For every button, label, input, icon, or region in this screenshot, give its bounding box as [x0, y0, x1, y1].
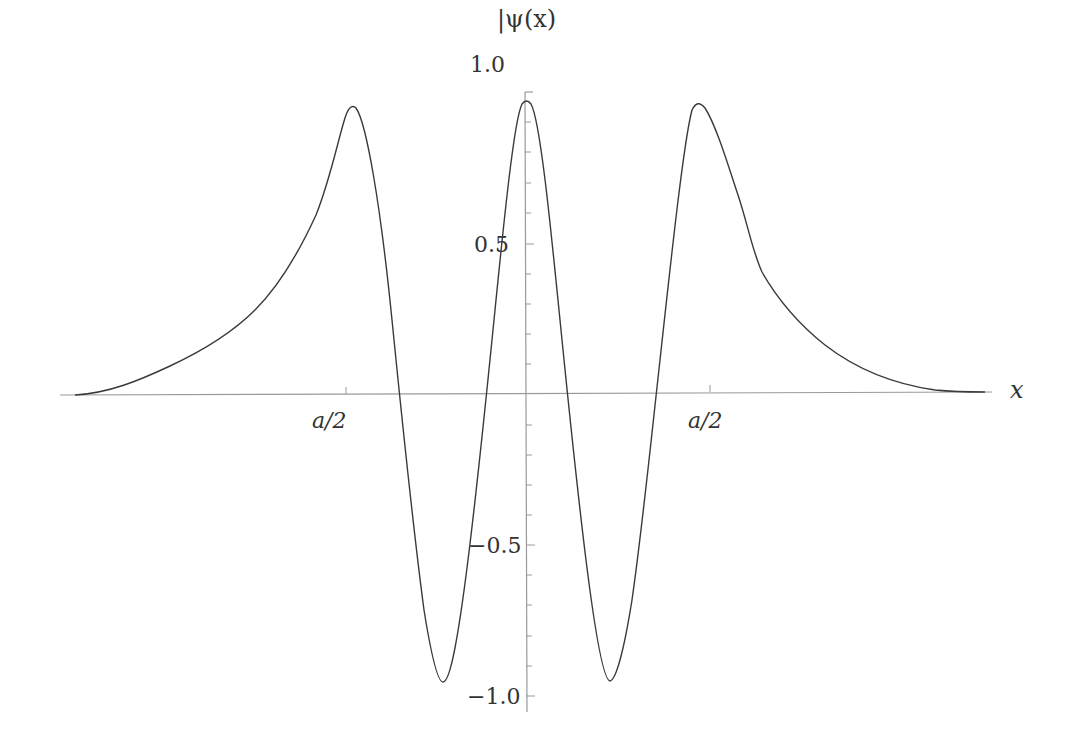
x-axis-label: x — [1010, 376, 1024, 404]
x-tick-label-left: a/2 — [312, 408, 347, 433]
x-tick-label-right: a/2 — [688, 408, 723, 433]
y-tick-label-m05: −0.5 — [468, 533, 521, 558]
y-tick-label-05: 0.5 — [474, 232, 509, 257]
wavefunction-plot: |ψ(x) 1.0 0.5 −0.5 −1.0 a/2 a/2 x — [0, 0, 1080, 740]
y-tick-label-1: 1.0 — [470, 52, 505, 77]
wavefunction-curve — [75, 101, 985, 682]
y-axis — [525, 92, 527, 712]
y-axis-label: |ψ(x) — [497, 5, 556, 34]
y-tick-label-m1: −1.0 — [467, 684, 520, 709]
